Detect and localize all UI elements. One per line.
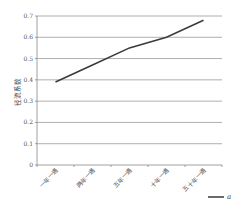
legend-label: a xyxy=(227,193,231,201)
x-tick-label: 两年一遇 xyxy=(74,167,97,190)
y-tick-label: 0 xyxy=(29,161,33,168)
y-axis-label: 径流系数 xyxy=(13,78,22,106)
y-axis-ticks: 00.10.20.30.40.50.60.7 xyxy=(23,12,37,168)
x-tick-label: 一年一遇 xyxy=(37,167,60,190)
y-tick-label: 0.5 xyxy=(23,55,33,62)
x-axis-ticks: 一年一遇两年一遇五年一遇十年一遇五十年一遇 xyxy=(37,165,222,194)
y-tick-label: 0.7 xyxy=(23,12,33,19)
gridlines xyxy=(37,16,222,144)
y-tick-label: 0.2 xyxy=(23,118,33,125)
x-tick-label: 五十年一遇 xyxy=(181,167,208,194)
x-tick-label: 十年一遇 xyxy=(148,167,171,190)
line-chart: 00.10.20.30.40.50.60.7 一年一遇两年一遇五年一遇十年一遇五… xyxy=(0,0,241,213)
y-tick-label: 0.4 xyxy=(23,76,33,83)
series-a-line xyxy=(56,20,204,82)
x-tick-label: 五年一遇 xyxy=(111,167,134,190)
legend: a xyxy=(208,193,231,201)
y-tick-label: 0.1 xyxy=(23,140,33,147)
y-tick-label: 0.3 xyxy=(23,97,33,104)
y-tick-label: 0.6 xyxy=(23,33,33,40)
